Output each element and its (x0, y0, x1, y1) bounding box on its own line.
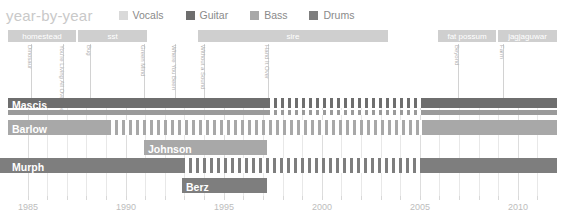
album-title-label: Green Mind (140, 45, 146, 76)
axis-tick (498, 196, 499, 200)
axis-tick (341, 196, 342, 200)
axis-tick (263, 196, 264, 200)
axis-tick (479, 196, 480, 200)
record-label-fat-possum: fat possum (438, 30, 496, 42)
timeline-row-berz (0, 178, 565, 193)
chart-header: year-by-year VocalsGuitarBassDrums (0, 4, 565, 26)
axis-tick (204, 196, 205, 200)
legend-swatch-icon (186, 11, 195, 20)
axis-year-label: 1995 (214, 202, 234, 212)
legend-swatch-icon (119, 11, 128, 20)
axis-tick (184, 196, 185, 200)
record-label-bars: homesteadsstsirefat possumjagjaguwar (0, 30, 565, 42)
legend-item-guitar: Guitar (186, 9, 229, 21)
record-label-text: sst (107, 32, 117, 41)
axis-tick (420, 196, 421, 200)
axis-tick (518, 196, 519, 200)
record-label-homestead: homestead (8, 30, 76, 42)
row-label-murph: Murph (12, 162, 44, 173)
timeline-segment-guitar (422, 98, 557, 108)
axis-tick (459, 196, 460, 200)
x-axis: 198519901995200020052010 (0, 196, 565, 220)
timeline-plot: MascisBarlowJohnsonMurphBerz (0, 98, 565, 196)
axis-tick (126, 196, 127, 200)
axis-year-label: 2000 (312, 202, 332, 212)
row-label-johnson: Johnson (148, 144, 192, 155)
legend-item-bass: Bass (250, 9, 287, 21)
axis-tick (302, 196, 303, 200)
timeline-row-mascis (0, 98, 565, 108)
axis-tick (283, 196, 284, 200)
timeline-row-mascis-vocals (0, 110, 565, 115)
timeline-segment-drums (182, 158, 422, 173)
axis-tick (243, 196, 244, 200)
album-markers: DinosaurYou're Living All Over MeBugGree… (0, 44, 565, 98)
legend-item-drums: Drums (309, 9, 354, 21)
album-title-label: Where You Been (171, 45, 177, 90)
legend-item-vocals: Vocals (119, 9, 164, 21)
legend: VocalsGuitarBassDrums (119, 9, 355, 21)
legend-swatch-icon (309, 11, 318, 20)
axis-year-label: 1990 (116, 202, 136, 212)
axis-year-label: 2010 (508, 202, 528, 212)
axis-tick (28, 196, 29, 200)
axis-tick (86, 196, 87, 200)
axis-tick (381, 196, 382, 200)
record-label-text: homestead (22, 32, 62, 41)
axis-tick (67, 196, 68, 200)
timeline-segment-drums (422, 158, 557, 173)
row-label-barlow: Barlow (12, 124, 47, 135)
timeline-segment-vocals (422, 110, 557, 115)
timeline-row-murph (0, 158, 565, 173)
timeline-segment-guitar (267, 98, 422, 108)
record-label-jagjaguwar: jagjaguwar (498, 30, 557, 42)
record-label-sst: sst (78, 30, 147, 42)
record-label-text: jagjaguwar (508, 32, 547, 41)
legend-label: Bass (264, 9, 287, 21)
album-title-label: Farm (499, 45, 505, 59)
album-title-label: Hand It Over (264, 45, 270, 79)
legend-label: Drums (323, 9, 354, 21)
axis-tick (537, 196, 538, 200)
axis-tick (439, 196, 440, 200)
album-title-label: Without a Sound (200, 45, 206, 89)
axis-tick (400, 196, 401, 200)
axis-tick (47, 196, 48, 200)
axis-tick (106, 196, 107, 200)
axis-year-label: 2005 (410, 202, 430, 212)
timeline-segment-vocals (267, 110, 422, 115)
legend-label: Guitar (200, 9, 229, 21)
row-label-berz: Berz (186, 182, 209, 193)
legend-swatch-icon (250, 11, 259, 20)
record-label-sire: sire (198, 30, 388, 42)
timeline-segment-bass (108, 120, 422, 135)
timeline-row-johnson (0, 140, 565, 155)
axis-tick (165, 196, 166, 200)
page-title: year-by-year (6, 7, 93, 24)
timeline-row-barlow (0, 120, 565, 135)
timeline-segment-bass (422, 120, 557, 135)
axis-tick (145, 196, 146, 200)
album-title-label: Beyond (454, 45, 460, 65)
axis-tick (322, 196, 323, 200)
record-label-text: fat possum (447, 32, 486, 41)
legend-label: Vocals (133, 9, 164, 21)
record-label-text: sire (287, 32, 300, 41)
album-title-label: Dinosaur (27, 45, 33, 69)
axis-tick (224, 196, 225, 200)
axis-year-label: 1985 (18, 202, 38, 212)
album-title-label: Bug (86, 45, 92, 56)
row-label-mascis: Mascis (12, 100, 47, 111)
axis-tick (361, 196, 362, 200)
